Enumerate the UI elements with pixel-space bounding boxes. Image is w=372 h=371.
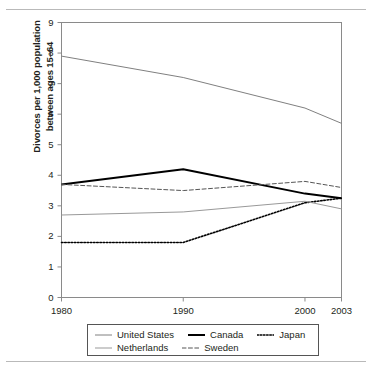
legend-row: NetherlandsSweden [88,341,318,354]
y-axis-tick-label: 9 [32,17,54,28]
x-axis-tick-label: 2000 [285,305,325,316]
x-axis-tick-label: 1990 [163,305,203,316]
y-axis-tick-label: 5 [32,139,54,150]
legend-swatch-dashed [182,344,199,352]
legend-label: Netherlands [117,343,168,353]
axes-layer [58,23,342,302]
series-layer [62,56,342,242]
y-axis-tick-label: 6 [32,108,54,119]
legend-label: Sweden [204,343,238,353]
legend-label: Japan [279,330,305,340]
series-line-canada [62,169,342,198]
y-axis-tick-label: 7 [32,78,54,89]
x-axis-tick-label: 2003 [322,305,362,316]
legend-label: Canada [210,330,243,340]
legend-row: United StatesCanadaJapan [88,328,318,341]
x-axis-tick-label: 1980 [42,305,82,316]
legend-swatch-dotted [257,331,274,339]
legend-swatch-solid [188,331,205,339]
y-axis-tick-label: 8 [32,47,54,58]
chart-figure: Divorces per 1,000 population between ag… [0,0,372,371]
chart-legend: United StatesCanadaJapanNetherlandsSwede… [87,324,319,356]
legend-item-sweden[interactable]: Sweden [182,343,238,353]
y-axis-tick-label: 1 [32,261,54,272]
y-axis-tick-label: 3 [32,200,54,211]
series-line-united-states [62,56,342,123]
y-axis-tick-label: 2 [32,230,54,241]
legend-item-japan[interactable]: Japan [257,330,305,340]
y-axis-tick-label: 4 [32,169,54,180]
series-line-japan [62,198,342,242]
legend-item-united-states[interactable]: United States [95,330,174,340]
y-axis-tick-label: 0 [32,292,54,303]
series-line-netherlands [62,201,342,215]
legend-item-netherlands[interactable]: Netherlands [95,343,168,353]
legend-swatch-solid [95,344,112,352]
legend-label: United States [117,330,174,340]
legend-item-canada[interactable]: Canada [188,330,243,340]
series-line-sweden [62,181,342,190]
legend-swatch-solid [95,331,112,339]
